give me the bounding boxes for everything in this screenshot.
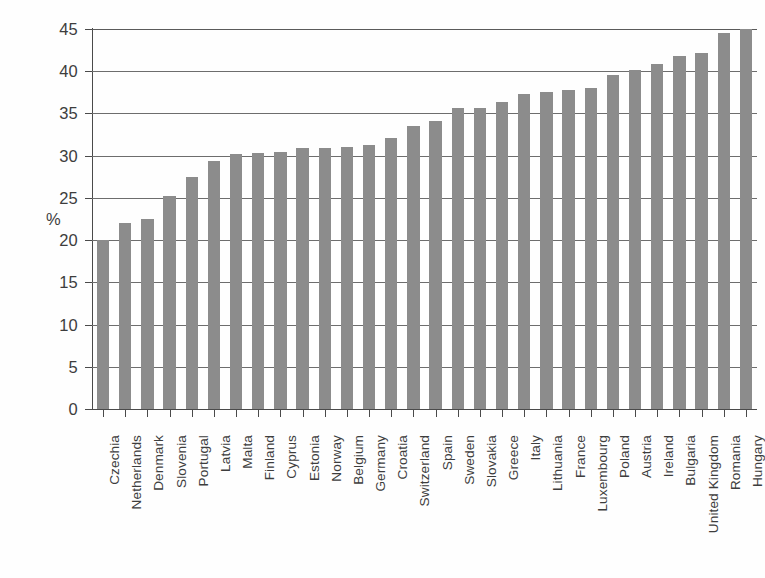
bar (585, 88, 597, 409)
x-axis-tick (258, 409, 259, 417)
bar (695, 53, 707, 409)
x-axis-tick (391, 409, 392, 417)
y-axis-tick-label: 20 (32, 232, 78, 249)
x-axis-tick (103, 409, 104, 417)
x-axis-label: France (574, 435, 588, 478)
bar (562, 90, 574, 409)
x-axis-tick (147, 409, 148, 417)
bar (718, 33, 730, 409)
bar (740, 29, 752, 409)
y-axis-tick-label: 40 (32, 63, 78, 80)
x-axis-tick (613, 409, 614, 417)
y-axis-tick-label: 30 (32, 148, 78, 165)
gridline (92, 29, 757, 30)
x-axis-label: Denmark (152, 435, 166, 491)
x-axis-tick (569, 409, 570, 417)
x-axis-label: Lithuania (551, 435, 565, 491)
y-axis-tick (85, 325, 92, 326)
y-axis-tick (85, 240, 92, 241)
x-axis-tick (303, 409, 304, 417)
x-axis-label: Bulgaria (684, 435, 698, 486)
y-axis-tick (85, 156, 92, 157)
y-axis-tick-label: 35 (32, 105, 78, 122)
x-axis-tick (480, 409, 481, 417)
x-axis-label: Hungary (751, 435, 765, 487)
y-axis-tick (85, 367, 92, 368)
bar (119, 223, 131, 409)
bar (230, 154, 242, 409)
x-axis-label: Belgium (352, 435, 366, 485)
bar (208, 161, 220, 409)
bar (163, 196, 175, 409)
x-axis-label: Slovenia (175, 435, 189, 488)
y-axis-tick-label: 45 (32, 21, 78, 38)
x-axis-tick (236, 409, 237, 417)
y-axis-tick (85, 198, 92, 199)
x-axis-label: Luxembourg (596, 435, 610, 512)
x-axis-tick (546, 409, 547, 417)
y-axis-tick (85, 71, 92, 72)
x-axis-tick (458, 409, 459, 417)
x-axis-tick (280, 409, 281, 417)
x-axis-tick (325, 409, 326, 417)
x-axis-label: United Kingdom (707, 435, 721, 533)
x-axis: CzechiaNetherlandsDenmarkSloveniaPortuga… (92, 409, 757, 578)
x-axis-tick (413, 409, 414, 417)
bar (341, 147, 353, 409)
x-axis-tick (192, 409, 193, 417)
x-axis-label: Croatia (396, 435, 410, 480)
x-axis-label: Poland (618, 435, 632, 478)
bar (296, 148, 308, 409)
x-axis-label: Greece (507, 435, 521, 480)
x-axis-tick (702, 409, 703, 417)
y-axis-tick (85, 409, 92, 410)
bar (651, 64, 663, 409)
bar (496, 102, 508, 409)
x-axis-label: Italy (529, 435, 543, 460)
x-axis-label: Ireland (662, 435, 676, 477)
x-axis-tick (347, 409, 348, 417)
x-axis-label: Malta (241, 435, 255, 469)
x-axis-tick (170, 409, 171, 417)
bar-chart-figure: % 051015202530354045 CzechiaNetherlandsD… (0, 0, 765, 578)
bar (518, 94, 530, 409)
x-axis-label: Austria (640, 435, 654, 478)
x-axis-label: Norway (330, 435, 344, 482)
x-axis-label: Slovakia (485, 435, 499, 487)
y-axis-tick-label: 10 (32, 317, 78, 334)
bar (540, 92, 552, 409)
x-axis-tick (657, 409, 658, 417)
bar (474, 108, 486, 409)
x-axis-label: Spain (441, 435, 455, 470)
bar (363, 145, 375, 409)
bar (629, 70, 641, 409)
y-axis-tick-label: 25 (32, 190, 78, 207)
bar (385, 138, 397, 409)
y-axis-tick (85, 113, 92, 114)
x-axis-label: Finland (263, 435, 277, 480)
y-axis-tick (85, 29, 92, 30)
bar (429, 121, 441, 409)
x-axis-tick (679, 409, 680, 417)
x-axis-tick (369, 409, 370, 417)
bar (673, 56, 685, 409)
x-axis-tick (746, 409, 747, 417)
x-axis-label: Czechia (108, 435, 122, 485)
x-axis-tick (591, 409, 592, 417)
x-axis-label: Sweden (463, 435, 477, 485)
x-axis-tick (502, 409, 503, 417)
plot-area (92, 29, 757, 409)
y-axis-tick-label: 5 (32, 359, 78, 376)
x-axis-tick (436, 409, 437, 417)
x-axis-tick (635, 409, 636, 417)
y-axis-tick-label: 15 (32, 274, 78, 291)
x-axis-label: Germany (374, 435, 388, 492)
bar (186, 177, 198, 409)
y-axis-tick-labels: 051015202530354045 (18, 0, 78, 578)
x-axis-label: Netherlands (130, 435, 144, 509)
x-axis-label: Estonia (308, 435, 322, 481)
bar (274, 152, 286, 409)
bar (607, 75, 619, 409)
y-axis-tick-label: 0 (32, 401, 78, 418)
bar (97, 240, 109, 409)
